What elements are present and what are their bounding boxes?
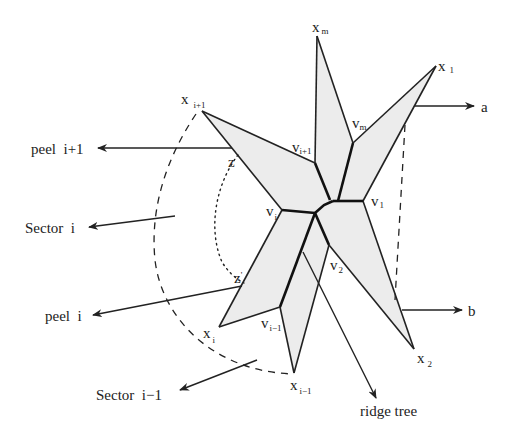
label-ridge-tree: ridge tree	[360, 403, 417, 419]
label-x-2: x2	[417, 350, 432, 369]
label-x-1: x1	[438, 58, 454, 75]
label-x-m: xm	[312, 19, 329, 36]
label-peel-i: peel i	[45, 308, 82, 324]
label-z: z	[228, 154, 235, 170]
label-v-i-plus-1: vi+1	[292, 139, 312, 156]
label-v-m: vm	[352, 115, 367, 132]
label-sector-i-minus-1: Sector i−1	[96, 387, 162, 403]
label-sector-i: Sector i	[25, 220, 75, 236]
arrow-sector-i-minus-1	[180, 360, 257, 390]
label-x-i-minus-1: xi−1	[290, 377, 312, 396]
label-v-1: v1	[371, 193, 384, 210]
label-peel-i-plus-1: peel i+1	[31, 141, 84, 157]
label-x-i: xi	[203, 325, 216, 345]
label-v-i-minus-1: vi−1	[261, 315, 282, 333]
peel-boundary-dotted-arc	[215, 155, 244, 283]
label-b: b	[468, 303, 476, 319]
label-v-i: vi	[266, 203, 278, 222]
arrow-peel-i	[93, 286, 242, 315]
arrow-sector-i	[89, 216, 175, 227]
sector-boundary-line-right	[395, 125, 405, 300]
label-a: a	[481, 99, 488, 115]
label-z-prime: z'	[234, 270, 243, 286]
star-polygon-diagram: xm x1 xi+1 xi xi−1 x2 vm vi+1 v1 vi v2 v…	[0, 0, 510, 436]
label-x-i-plus-1: xi+1	[181, 91, 206, 110]
